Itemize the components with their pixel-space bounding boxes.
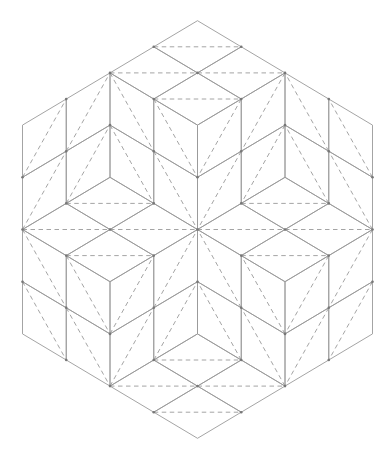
- vertex-dot: [327, 307, 330, 310]
- vertex-dot: [240, 359, 243, 362]
- vertex-dot: [196, 176, 199, 179]
- dashed-diagonal: [329, 151, 373, 229]
- vertex-dot: [240, 307, 243, 310]
- dashed-diagonal: [329, 99, 373, 177]
- dashed-diagonal: [23, 230, 67, 308]
- vertex-dot: [21, 280, 24, 283]
- dashed-diagonal: [329, 230, 373, 308]
- vertex-dot: [240, 46, 243, 49]
- vertex-dot: [284, 72, 287, 75]
- vertex-dot: [152, 359, 155, 362]
- dashed-diagonal: [66, 256, 110, 334]
- vertex-dot: [240, 98, 243, 101]
- vertex-dot: [152, 98, 155, 101]
- vertex-dot: [196, 280, 199, 283]
- vertex-dot: [152, 46, 155, 49]
- dashed-diagonal: [241, 73, 285, 151]
- vertex-dot: [240, 254, 243, 257]
- vertex-dot: [109, 228, 112, 231]
- dashed-diagonal: [23, 282, 67, 360]
- dashed-diagonal: [66, 73, 110, 151]
- dashed-diagonal: [285, 308, 329, 386]
- vertex-dot: [21, 228, 24, 231]
- dashed-diagonal: [154, 99, 198, 177]
- vertex-dot: [109, 333, 112, 336]
- dashed-diagonal: [241, 308, 285, 386]
- vertex-dot: [152, 254, 155, 257]
- dashed-diagonal: [23, 151, 67, 229]
- vertex-dot: [152, 411, 155, 414]
- vertex-dot: [284, 124, 287, 127]
- vertex-dot: [65, 150, 68, 153]
- vertex-dot: [327, 359, 330, 362]
- dashed-diagonal: [66, 125, 110, 203]
- dashed-diagonal: [241, 256, 285, 334]
- vertex-dot: [284, 385, 287, 388]
- dashed-diagonal: [329, 282, 373, 360]
- vertex-dot: [152, 307, 155, 310]
- vertex-dot: [65, 359, 68, 362]
- vertex-dot: [327, 98, 330, 101]
- vertex-dot: [284, 333, 287, 336]
- dashed-diagonal: [198, 230, 242, 308]
- vertex-dot: [152, 150, 155, 153]
- vertex-dot: [109, 124, 112, 127]
- vertex-dot: [371, 176, 374, 179]
- dashed-diagonal: [110, 256, 154, 334]
- vertex-dot: [327, 202, 330, 205]
- dashed-diagonal: [154, 151, 198, 229]
- vertex-dot: [109, 72, 112, 75]
- vertex-dot: [327, 150, 330, 153]
- vertex-dot: [240, 150, 243, 153]
- vertex-dot: [196, 385, 199, 388]
- vertex-dot: [65, 307, 68, 310]
- vertex-dot: [327, 254, 330, 257]
- dashed-diagonal: [285, 73, 329, 151]
- vertex-dot: [109, 385, 112, 388]
- dashed-diagonal: [154, 282, 198, 360]
- dashed-diagonal: [23, 99, 67, 177]
- vertex-dot: [196, 72, 199, 75]
- vertex-dot: [152, 202, 155, 205]
- dashed-diagonal: [66, 308, 110, 386]
- vertex-dot: [65, 98, 68, 101]
- vertex-dot: [371, 228, 374, 231]
- vertex-dot: [240, 411, 243, 414]
- lozenge-tiling-diagram: [0, 0, 391, 451]
- dashed-diagonal: [198, 99, 242, 177]
- dashed-diagonal: [110, 125, 154, 203]
- vertex-dot: [21, 176, 24, 179]
- vertex-dot: [284, 228, 287, 231]
- dashed-diagonal: [154, 230, 198, 308]
- dashed-diagonal: [285, 125, 329, 203]
- vertex-dot: [371, 280, 374, 283]
- dashed-diagonal: [110, 73, 154, 151]
- dashed-diagonal: [241, 125, 285, 203]
- dashed-diagonal: [285, 256, 329, 334]
- dashed-diagonal: [110, 308, 154, 386]
- vertex-dot: [240, 202, 243, 205]
- dashed-diagonal: [198, 282, 242, 360]
- vertex-dot: [196, 228, 199, 231]
- vertex-dot: [65, 254, 68, 257]
- dashed-diagonal: [198, 151, 242, 229]
- vertex-dot: [65, 202, 68, 205]
